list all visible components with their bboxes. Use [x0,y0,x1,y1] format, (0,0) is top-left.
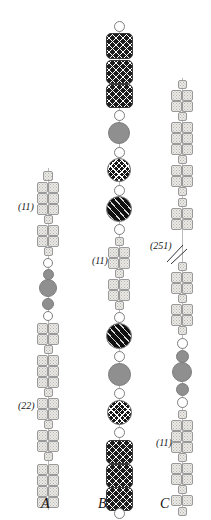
paired-stippled-square [171,133,182,144]
single-stippled-square [178,326,187,335]
chromosome-idiogram-figure: (11)(22)A(11)B(251)(11)C [0,0,211,520]
gray-circle [172,362,192,382]
single-stippled-square [178,112,187,121]
paired-stippled-square [182,420,193,431]
single-stippled-square [178,80,187,89]
paired-stippled-square [171,420,182,431]
paired-stippled-square [171,315,182,326]
paired-stippled-square [182,208,193,219]
paired-stippled-square [171,208,182,219]
white-circle [177,397,188,408]
paired-stippled-square [171,90,182,101]
paired-stippled-square [171,101,182,112]
paired-stippled-square [171,165,182,176]
single-stippled-square [178,198,187,207]
paired-stippled-square [171,463,182,474]
paired-stippled-square [182,463,193,474]
paired-stippled-square [171,474,182,485]
single-stippled-square [178,155,187,164]
single-stippled-square [178,453,187,462]
paired-stippled-square [182,272,193,283]
single-stippled-square [178,294,187,303]
paired-stippled-square [171,219,182,230]
panel-letter-c: C [160,496,169,512]
paired-stippled-square [182,304,193,315]
paired-stippled-square [182,165,193,176]
paired-stippled-square [182,144,193,155]
paired-stippled-square [182,219,193,230]
paired-stippled-square [171,176,182,187]
paired-stippled-square [171,283,182,294]
gray-circle [176,383,189,396]
white-circle [177,338,188,349]
paired-stippled-square [182,176,193,187]
paired-stippled-square [182,495,193,506]
single-stippled-square [178,485,187,494]
paired-stippled-square [171,495,182,506]
paired-stippled-square [182,315,193,326]
paired-stippled-square [171,272,182,283]
paired-stippled-square [182,90,193,101]
paired-stippled-square [171,304,182,315]
region-count-label: (11) [156,437,172,448]
paired-stippled-square [171,431,182,442]
paired-stippled-square [182,101,193,112]
idiogram-panel-c: (251)(11)C [0,0,211,520]
paired-stippled-square [182,133,193,144]
gray-circle [176,350,189,363]
paired-stippled-square [182,122,193,133]
paired-stippled-square [182,474,193,485]
paired-stippled-square [182,283,193,294]
paired-stippled-square [182,431,193,442]
paired-stippled-square [171,144,182,155]
paired-stippled-square [171,122,182,133]
region-count-label: (251) [150,240,172,251]
paired-stippled-square [182,442,193,453]
paired-stippled-square [171,442,182,453]
single-stippled-square [178,507,187,516]
single-stippled-square [178,187,187,196]
single-stippled-square [178,410,187,419]
